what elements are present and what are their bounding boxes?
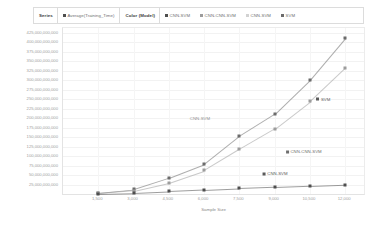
data-point[interactable] [238, 187, 241, 190]
y-axis-tick-label: 50,000,000,000 [29, 172, 58, 177]
y-axis-tick-label: 200,000,000,000 [27, 115, 58, 120]
data-point[interactable] [132, 191, 135, 194]
y-axis-tick-label: 75,000,000,000 [29, 162, 58, 167]
gridline-horizontal [63, 109, 364, 110]
trend-line-cnn-cnn-svm [275, 101, 311, 129]
series-annotation: SVM [316, 97, 330, 102]
chart-legend: Series Average(Training_Time) Color (Mod… [33, 7, 364, 24]
data-point[interactable] [203, 188, 206, 191]
square-marker-icon [316, 98, 319, 101]
chart-screenshot: Series Average(Training_Time) Color (Mod… [0, 0, 367, 228]
square-marker-icon [286, 150, 289, 153]
y-axis-tick-label: 350,000,000,000 [27, 58, 58, 63]
annotation-label: CNN-SVM [190, 116, 210, 121]
data-point[interactable] [238, 148, 241, 151]
legend-item-cnn-svm-light[interactable]: CNN-SVM [241, 13, 276, 18]
y-axis-tick-label: 150,000,000,000 [27, 134, 58, 139]
trend-line-cnn-svm [310, 185, 345, 187]
square-marker-icon [246, 14, 249, 17]
gridline-vertical [98, 28, 99, 194]
data-point[interactable] [203, 163, 206, 166]
y-axis-tick-label: 375,000,000,000 [27, 48, 58, 53]
y-axis-tick-labels: 425,000,000,000400,000,000,000375,000,00… [0, 27, 60, 195]
legend-item-label: Average(Training_Time) [67, 13, 114, 18]
y-axis-tick-label: 225,000,000,000 [27, 105, 58, 110]
data-point[interactable] [344, 67, 347, 70]
legend-item-label: CNN-SVM [251, 13, 271, 18]
trend-line-cnn-svm [169, 190, 204, 193]
data-point[interactable] [273, 127, 276, 130]
data-point[interactable] [273, 186, 276, 189]
data-point[interactable] [97, 192, 100, 195]
gridline-horizontal [63, 166, 364, 167]
legend-item-label: SVM [286, 13, 295, 18]
data-point[interactable] [308, 185, 311, 188]
x-axis-title: Sample Size [62, 207, 365, 212]
annotation-label: SVM [321, 97, 330, 102]
y-axis-tick-label: 325,000,000,000 [27, 67, 58, 72]
annotation-label: CNN-SVM [267, 171, 287, 176]
y-axis-tick-label: 100,000,000,000 [27, 153, 58, 158]
trend-line-cnn-svm [204, 188, 239, 191]
square-marker-icon [200, 14, 203, 17]
legend-item-cnn-cnn-svm[interactable]: CNN-CNN-SVM [195, 13, 241, 18]
square-marker-icon [63, 14, 66, 17]
data-point[interactable] [308, 100, 311, 103]
data-point[interactable] [167, 181, 170, 184]
data-point[interactable] [238, 135, 241, 138]
x-axis-tick-label: 10,500 [303, 196, 316, 201]
x-axis-tick-label: 6,000 [198, 196, 208, 201]
data-point[interactable] [308, 79, 311, 82]
series-annotation: CNN-CNN-SVM [286, 149, 322, 154]
trend-line-svm [310, 38, 346, 80]
annotation-label: CNN-CNN-SVM [290, 149, 321, 154]
plot-area: CNN-SVMSVMCNN-CNN-SVMCNN-SVM [62, 27, 365, 195]
gridline-horizontal [63, 118, 364, 119]
legend-item-average-training-time[interactable]: Average(Training_Time) [58, 13, 120, 18]
data-point[interactable] [344, 37, 347, 40]
gridline-vertical [275, 28, 276, 194]
y-axis-tick-label: 275,000,000,000 [27, 86, 58, 91]
x-axis-tick-label: 7,500 [233, 196, 243, 201]
gridline-vertical [134, 28, 135, 194]
legend-series-title: Series [34, 13, 57, 18]
legend-item-cnn-svm[interactable]: CNN-SVM [160, 13, 195, 18]
x-axis-tick-label: 1,500 [92, 196, 102, 201]
y-axis-tick-label: 25,000,000,000 [29, 181, 58, 186]
y-axis-tick-label: 425,000,000,000 [27, 29, 58, 34]
y-axis-tick-label: 175,000,000,000 [27, 124, 58, 129]
trend-line-cnn-svm [275, 186, 310, 188]
legend-color-title: Color (Model) [120, 13, 159, 18]
gridline-horizontal [63, 137, 364, 138]
legend-item-label: CNN-SVM [170, 13, 190, 18]
gridline-horizontal [63, 90, 364, 91]
data-point[interactable] [203, 169, 206, 172]
square-marker-icon [281, 14, 284, 17]
gridline-vertical [345, 28, 346, 194]
trend-line-cnn-svm [98, 193, 133, 195]
trend-line-cnn-svm [134, 191, 169, 194]
gridline-horizontal [63, 147, 364, 148]
legend-item-svm[interactable]: SVM [276, 13, 300, 18]
trend-line-svm [275, 80, 311, 115]
gridline-vertical [310, 28, 311, 194]
legend-item-label: CNN-CNN-SVM [205, 13, 236, 18]
gridline-vertical [239, 28, 240, 194]
data-point[interactable] [167, 190, 170, 193]
y-axis-tick-label: 300,000,000,000 [27, 77, 58, 82]
square-marker-icon [263, 172, 266, 175]
gridline-horizontal [63, 80, 364, 81]
y-axis-tick-label: 400,000,000,000 [27, 39, 58, 44]
x-axis-tick-label: 12,000 [338, 196, 351, 201]
x-axis-tick-label: 9,000 [268, 196, 278, 201]
data-point[interactable] [167, 177, 170, 180]
gridline-vertical [169, 28, 170, 194]
data-point[interactable] [273, 113, 276, 116]
gridline-horizontal [63, 61, 364, 62]
x-axis-tick-label: 3,000 [127, 196, 137, 201]
gridline-horizontal [63, 42, 364, 43]
trend-line-cnn-svm [239, 187, 274, 189]
gridline-horizontal [63, 33, 364, 34]
y-axis-tick-label: 250,000,000,000 [27, 96, 58, 101]
data-point[interactable] [344, 183, 347, 186]
